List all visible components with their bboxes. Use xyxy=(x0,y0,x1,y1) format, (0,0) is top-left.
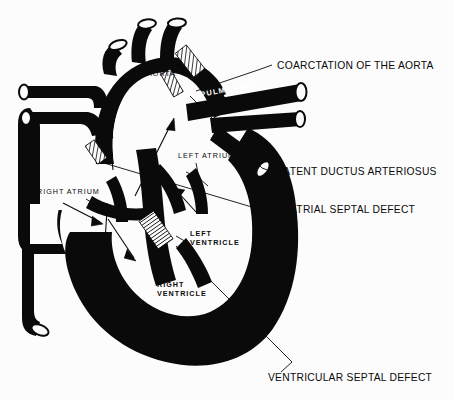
diagram-canvas: AORTAPULMONARY ARTERYLEFT ATRIUMRIGHT AT… xyxy=(0,0,453,400)
pulmonary-artery-cut-end xyxy=(296,83,307,101)
anatomy-label-left-atrium: LEFT ATRIUM xyxy=(178,151,235,160)
anatomy-label-right-atrium: RIGHT ATRIUM xyxy=(37,187,100,196)
anatomy-label-aorta: AORTA xyxy=(147,69,176,78)
callout-label-vsd: VENTRICULAR SEPTAL DEFECT xyxy=(268,372,433,383)
callout-label-asd: ATRIAL SEPTAL DEFECT xyxy=(290,204,416,215)
anatomy-label-left-ventricle-l1: LEFT xyxy=(190,229,212,238)
anatomy-label-left-ventricle-l2: VENTRICLE xyxy=(190,238,240,247)
svc-cut-end xyxy=(19,85,29,100)
heart-diagram: AORTAPULMONARY ARTERYLEFT ATRIUMRIGHT AT… xyxy=(0,0,453,400)
pulmonary-vein-cut-end xyxy=(21,111,31,125)
callout-label-pda: PATENT DUCTUS ARTERIOSUS xyxy=(277,166,437,177)
anatomy-label-right-ventricle-l2: VENTRICLE xyxy=(157,289,207,298)
anatomy-label-right-ventricle-l1: RIGHT xyxy=(157,280,184,289)
callout-label-coarctation: COARCTATION OF THE AORTA xyxy=(277,60,434,71)
branch-cut-end-3 xyxy=(168,18,187,29)
right-pulmonary-cut-end xyxy=(295,111,305,127)
